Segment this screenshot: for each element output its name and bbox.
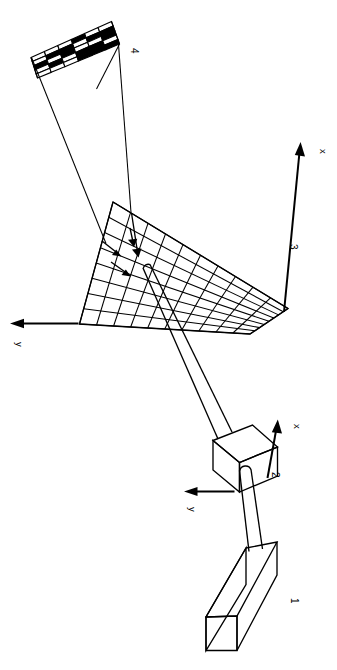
plane-axes: x y 3 bbox=[10, 142, 329, 347]
cube-top-face bbox=[213, 425, 278, 463]
plane-x-axis-arrowhead bbox=[295, 142, 305, 157]
laser-source-box: 1 bbox=[206, 542, 300, 651]
rod-tip-cap bbox=[240, 466, 252, 471]
grid-line-horizontal bbox=[92, 278, 264, 324]
source-box-end-face bbox=[206, 616, 237, 651]
component-2-label: 2 bbox=[270, 472, 281, 478]
rod-edge-b bbox=[251, 470, 263, 550]
scanner-head-cube bbox=[213, 425, 278, 492]
target-grid-plane bbox=[80, 202, 289, 334]
cube-left-face bbox=[213, 441, 240, 493]
source-box-side-edge bbox=[237, 542, 277, 651]
laser-scanning-diagram: 4 x y 3 bbox=[0, 0, 337, 670]
connecting-rod bbox=[240, 466, 263, 552]
source-box-front-face bbox=[206, 548, 246, 651]
scanner-y-axis-arrowhead bbox=[184, 487, 198, 496]
checkerboard-pattern bbox=[31, 22, 120, 90]
grid-line-horizontal bbox=[100, 248, 273, 318]
source-box-top-face bbox=[206, 542, 277, 617]
rod-edge-a bbox=[240, 471, 250, 552]
diagram-canvas: 4 x y 3 bbox=[0, 0, 337, 670]
scanner-x-axis-arrowhead bbox=[272, 420, 282, 434]
plane-y-axis-label: y bbox=[14, 342, 25, 347]
plane-x-axis-label: x bbox=[318, 149, 329, 154]
component-1-label: 1 bbox=[289, 598, 300, 604]
component-3-label: 3 bbox=[288, 244, 299, 250]
projection-line-upper bbox=[119, 45, 132, 213]
beam-edge-b bbox=[150, 265, 232, 433]
beam-edge-a bbox=[143, 268, 218, 439]
component-4-label: 4 bbox=[129, 48, 140, 54]
scanner-y-axis-label: y bbox=[187, 507, 198, 512]
label-4-group: 4 bbox=[129, 48, 140, 54]
scanner-x-axis-label: x bbox=[292, 424, 303, 429]
projection-line-lower bbox=[32, 58, 107, 244]
plane-x-axis-line bbox=[284, 152, 300, 312]
laser-beam bbox=[143, 264, 232, 439]
scanner-x-axis-line bbox=[268, 428, 277, 478]
plane-y-axis-arrowhead bbox=[10, 319, 24, 328]
